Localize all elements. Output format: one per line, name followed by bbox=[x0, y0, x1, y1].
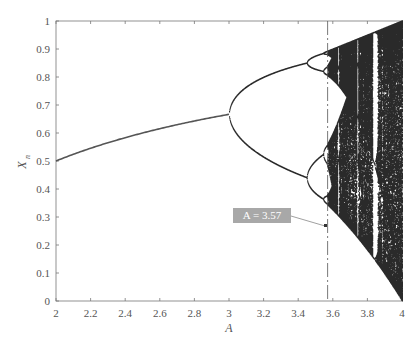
y-tick-label: 0.8 bbox=[36, 71, 50, 83]
x-tick-label: 4 bbox=[399, 307, 405, 319]
arrow-head-icon bbox=[324, 224, 327, 227]
y-tick-label: 0.4 bbox=[36, 183, 50, 195]
x-tick-label: 3.4 bbox=[291, 307, 305, 319]
y-tick-label: 0.7 bbox=[36, 99, 50, 111]
y-tick-label: 0.6 bbox=[36, 127, 50, 139]
x-axis-title: A bbox=[224, 321, 233, 335]
x-tick-label: 2.6 bbox=[153, 307, 167, 319]
y-tick-label: 0.9 bbox=[36, 43, 50, 55]
period-1-curve bbox=[56, 114, 229, 161]
y-axis-title-subscript: n bbox=[23, 155, 32, 159]
x-tick-label: 2.8 bbox=[188, 307, 202, 319]
y-tick-label: 0.3 bbox=[36, 211, 50, 223]
bifurcation-chart: 22.22.42.62.833.23.43.63.8400.10.20.30.4… bbox=[0, 0, 419, 342]
plot-area bbox=[56, 20, 403, 301]
y-tick-label: 0.5 bbox=[36, 155, 50, 167]
annotation-label: A = 3.57 bbox=[243, 209, 282, 221]
y-tick-label: 0.1 bbox=[36, 267, 50, 279]
annotation-arrow bbox=[291, 216, 325, 226]
x-tick-label: 2.4 bbox=[118, 307, 132, 319]
y-tick-label: 0 bbox=[45, 295, 51, 307]
x-tick-label: 3.6 bbox=[326, 307, 340, 319]
y-tick-label: 1 bbox=[45, 15, 51, 27]
x-tick-label: 3 bbox=[226, 307, 232, 319]
y-axis-title-main: X bbox=[15, 161, 29, 170]
annotation: A = 3.57 bbox=[233, 208, 327, 227]
x-tick-label: 3.2 bbox=[257, 307, 271, 319]
y-axis-title: X n bbox=[15, 155, 32, 170]
x-tick-label: 2.2 bbox=[84, 307, 98, 319]
y-tick-label: 0.2 bbox=[36, 239, 50, 251]
bifurcation-points bbox=[229, 20, 403, 301]
x-tick-label: 3.8 bbox=[361, 307, 375, 319]
x-tick-label: 2 bbox=[53, 307, 59, 319]
